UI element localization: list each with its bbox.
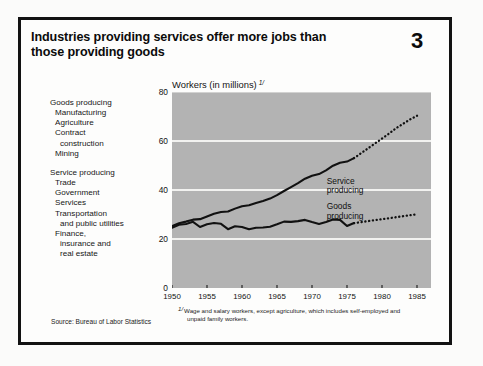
legend-item: insurance and bbox=[50, 239, 155, 249]
legend-group-heading: Goods producing bbox=[50, 98, 155, 108]
x-axis-tick-label: 1970 bbox=[303, 292, 321, 301]
figure-number: 3 bbox=[411, 28, 423, 54]
legend-item: Agriculture bbox=[50, 118, 155, 128]
chart-plot-area: 0204060801950195519601965197019751980198… bbox=[172, 92, 431, 288]
legend-item: real estate bbox=[50, 249, 155, 259]
legend-item: Contract bbox=[50, 128, 155, 138]
series-label-service-line-2: producing bbox=[327, 186, 364, 196]
slide-canvas: Industries providing services offer more… bbox=[0, 0, 483, 366]
footnote-line-2: unpaid family workers. bbox=[178, 315, 434, 323]
legend-item: Transportation bbox=[50, 209, 155, 219]
series-label-goods-line-2: producing bbox=[327, 212, 364, 222]
x-axis-tick-label: 1950 bbox=[163, 292, 181, 301]
x-axis-tick-label: 1985 bbox=[408, 292, 426, 301]
legend-item: Trade bbox=[50, 178, 155, 188]
legend-item: Government bbox=[50, 188, 155, 198]
legend-item: Services bbox=[50, 198, 155, 208]
x-axis-tick-label: 1955 bbox=[198, 292, 216, 301]
page-title: Industries providing services offer more… bbox=[31, 30, 361, 60]
legend-item: Mining bbox=[50, 149, 155, 159]
series-label-goods: Goodsproducing bbox=[327, 202, 364, 221]
y-axis-title-text: Workers (in millions) bbox=[172, 79, 257, 90]
legend-item: Manufacturing bbox=[50, 108, 155, 118]
legend-item: Finance, bbox=[50, 229, 155, 239]
x-axis-tick-label: 1965 bbox=[268, 292, 286, 301]
footnote-line-1: Wage and salary workers, except agricult… bbox=[184, 307, 400, 314]
category-legend: Goods producingManufacturingAgricultureC… bbox=[50, 98, 155, 268]
x-axis-tick-label: 1960 bbox=[233, 292, 251, 301]
source-note: Source: Bureau of Labor Statistics bbox=[51, 318, 151, 325]
x-axis-tick-label: 1980 bbox=[373, 292, 391, 301]
x-axis-tick-label: 1975 bbox=[338, 292, 356, 301]
legend-group-heading: Service producing bbox=[50, 168, 155, 178]
data-series-line bbox=[354, 116, 417, 158]
chart-svg bbox=[172, 92, 431, 288]
legend-item: and public utilities bbox=[50, 219, 155, 229]
y-axis-tick-label: 80 bbox=[159, 87, 168, 97]
legend-item: construction bbox=[50, 139, 155, 149]
legend-group: Goods producingManufacturingAgricultureC… bbox=[50, 98, 155, 159]
footnote: 1/Wage and salary workers, except agricu… bbox=[178, 305, 434, 322]
y-axis-tick-label: 40 bbox=[159, 185, 168, 195]
y-axis-footnote-marker: 1/ bbox=[259, 79, 264, 86]
y-axis-tick-label: 20 bbox=[159, 234, 168, 244]
footnote-marker: 1/ bbox=[178, 305, 183, 312]
legend-group: Service producingTradeGovernmentServices… bbox=[50, 168, 155, 259]
series-label-service: Serviceproducing bbox=[327, 177, 364, 196]
y-axis-title: Workers (in millions)1/ bbox=[172, 79, 264, 90]
y-axis-tick-label: 60 bbox=[159, 136, 168, 146]
